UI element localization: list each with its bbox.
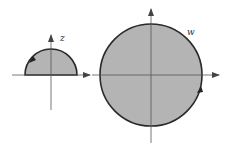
z-label: z [59,33,65,43]
w-label: w [187,27,195,37]
z-plane: z [12,33,90,110]
diagram-canvas: z w [0,0,229,145]
w-plane: w [92,9,219,143]
